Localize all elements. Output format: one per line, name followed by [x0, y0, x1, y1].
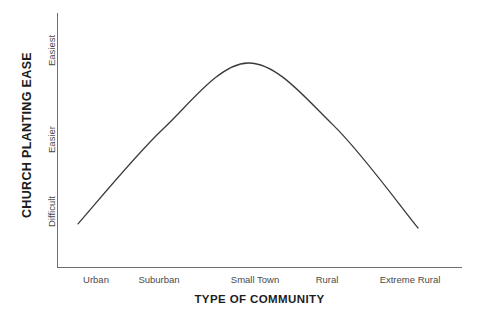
x-axis-title: TYPE OF COMMUNITY: [57, 293, 462, 305]
x-tick-label-small-town: Small Town: [231, 274, 279, 285]
bell-curve-line: [78, 63, 418, 228]
x-axis-line: [57, 267, 462, 268]
y-tick-label-easiest: Easiest: [46, 8, 57, 94]
y-tick-label-difficult: Difficult: [46, 169, 57, 255]
y-axis-line: [57, 13, 58, 268]
chart-container: CHURCH PLANTING EASE Easiest Easier Diff…: [0, 0, 482, 314]
x-tick-label-extreme-rural: Extreme Rural: [380, 274, 441, 285]
x-tick-label-rural: Rural: [316, 274, 339, 285]
x-tick-label-urban: Urban: [83, 274, 109, 285]
y-axis-title: CHURCH PLANTING EASE: [20, 35, 34, 235]
x-tick-label-suburban: Suburban: [138, 274, 179, 285]
